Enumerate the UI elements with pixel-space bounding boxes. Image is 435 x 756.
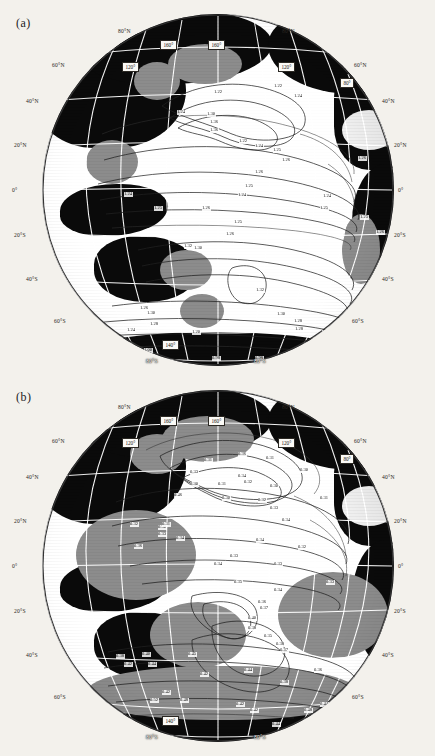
- panel-a-lat-40n-right: 40°N: [382, 98, 395, 104]
- contour-label: 1.28: [295, 327, 304, 332]
- panel-b-lat-20s-right: 20°S: [394, 608, 406, 614]
- contour-label: 1.10: [342, 344, 351, 349]
- panel-a-lon-120w: 120°: [122, 62, 139, 72]
- panel-b-lat-80s-left: 80°S: [146, 734, 158, 740]
- panel-b-globe: 0.360.310.310.340.300.330.300.310.320.30…: [42, 390, 394, 742]
- panel-b-lon-120w: 120°: [122, 438, 139, 448]
- panel-b-lat-40s-left: 40°S: [26, 652, 38, 658]
- panel-a-lat-0-left: 0°: [12, 187, 17, 193]
- contour-label: 1.24: [255, 144, 264, 149]
- contour-label: 1.24: [323, 194, 332, 199]
- panel-a-lon-160e: 160°: [208, 40, 225, 50]
- panel-a-contours: [98, 84, 359, 354]
- contour-label: 0.31: [162, 522, 171, 527]
- contour-label: 1.24: [124, 192, 133, 197]
- contour-label: 1.36: [210, 128, 219, 133]
- contour-label: 0.36: [238, 452, 247, 457]
- contour-label: 0.30: [190, 482, 199, 487]
- panel-a-lat-60n-right: 60°N: [354, 62, 367, 68]
- panel-b-lat-20n-right: 20°N: [394, 518, 407, 524]
- contour-label: 1.28: [150, 322, 159, 327]
- contour-label: 0.38: [248, 626, 257, 631]
- panel-a-lat-40s-right: 40°S: [382, 276, 394, 282]
- contour-label: 1.26: [255, 170, 264, 175]
- contour-label: 0.30: [222, 496, 231, 501]
- contour-label: 0.33: [190, 470, 199, 475]
- contour-label: 0.36: [258, 600, 267, 605]
- panel-b-lat-60s-right: 60°S: [352, 694, 364, 700]
- contour-label: 1.32: [184, 244, 193, 249]
- panel-b-lat-80s-right: 80°S: [254, 734, 266, 740]
- contour-label: 0.36: [314, 668, 323, 673]
- contour-label: 0.42: [236, 702, 245, 707]
- contour-label: 0.35: [264, 634, 273, 639]
- contour-label: 1.00: [352, 358, 361, 363]
- contour-label: 0.34: [274, 588, 283, 593]
- panel-b-lat-0-left: 0°: [12, 563, 17, 569]
- panel-a-lat-60s-right: 60°S: [352, 318, 364, 324]
- contour-label: 1.26: [282, 158, 291, 163]
- contour-label: 0.34: [238, 474, 247, 479]
- contour-label: 0.38: [116, 654, 125, 659]
- contour-label: 0.45: [188, 652, 197, 657]
- panel-b-lat-20s-left: 20°S: [14, 608, 26, 614]
- panel-a-lat-80n-right: 80°N: [282, 28, 295, 34]
- panel-a-overlay: [42, 14, 394, 366]
- panel-a-lat-20n-left: 20°N: [14, 142, 27, 148]
- contour-label: 0.52: [150, 698, 159, 703]
- contour-label: 0.34: [282, 518, 291, 523]
- contour-label: 0.42: [124, 662, 133, 667]
- panel-b-lat-40n-right: 40°N: [382, 474, 395, 480]
- contour-label: 0.36: [372, 672, 381, 677]
- contour-label: 1.24: [127, 328, 136, 333]
- contour-label: 0.30: [300, 468, 309, 473]
- panel-b-lon-80: 80°: [340, 454, 354, 464]
- contour-label: 1.30: [207, 112, 216, 117]
- contour-label: 0.33: [274, 562, 283, 567]
- panel-a-globe: 1.221.221.241.241.301.361.361.221.241.25…: [42, 14, 394, 366]
- contour-label: 1.00: [144, 348, 153, 353]
- contour-label: 0.32: [298, 545, 307, 550]
- contour-label: 0.30: [270, 484, 279, 489]
- panel-a-label: (a): [16, 16, 31, 31]
- contour-label: 1.24: [294, 94, 303, 99]
- panel-b-lat-60s-left: 60°S: [54, 694, 66, 700]
- contour-label: 1.32: [256, 288, 265, 293]
- panel-b-lat-80n-left: 80°N: [118, 404, 131, 410]
- panel-a-lat-60s-left: 60°S: [54, 318, 66, 324]
- contour-label: 1.26: [376, 230, 385, 235]
- contour-label: 1.25: [273, 148, 282, 153]
- panel-a-lat-80n-left: 80°N: [118, 28, 131, 34]
- panel-a-lat-0-right: 0°: [398, 187, 403, 193]
- panel-a-lat-20s-left: 20°S: [14, 232, 26, 238]
- contour-label: 1.26: [226, 232, 235, 237]
- contour-label: 0.48: [304, 708, 313, 713]
- contour-label: 0.40: [248, 616, 257, 621]
- panel-b-lat-40n-left: 40°N: [26, 474, 39, 480]
- contour-label: 1.02: [330, 356, 339, 361]
- contour-label: 1.30: [277, 312, 286, 317]
- panel-a-lon-120e: 120°: [278, 62, 295, 72]
- contour-label: 0.44: [344, 710, 353, 715]
- panel-b-lat-80n-right: 80°N: [282, 404, 295, 410]
- panel-b-label: (b): [16, 390, 32, 405]
- contour-label: 0.34: [214, 562, 223, 567]
- contour-label: 0.37: [280, 648, 289, 653]
- contour-label: 0.44: [272, 722, 281, 727]
- contour-label: 0.32: [244, 480, 253, 485]
- contour-label: 1.24: [322, 330, 331, 335]
- contour-label: 0.42: [250, 708, 259, 713]
- contour-label: 1.00: [304, 352, 313, 357]
- contour-label: 0.42: [200, 672, 209, 677]
- cut-off-caption-line: [0, 742, 435, 754]
- contour-label: 1.36: [210, 120, 219, 125]
- contour-label: 0.98: [212, 356, 221, 361]
- panel-a-lat-80s-left: 80°S: [146, 358, 158, 364]
- contour-label: 0.33: [230, 554, 239, 559]
- contour-label: 0.33: [270, 506, 279, 511]
- contour-label: 1.20: [192, 330, 201, 335]
- contour-label: 0.45: [328, 708, 337, 713]
- panel-b-lat-60n-right: 60°N: [354, 438, 367, 444]
- contour-label: 0.34: [176, 536, 185, 541]
- contour-label: 1.25: [360, 215, 369, 220]
